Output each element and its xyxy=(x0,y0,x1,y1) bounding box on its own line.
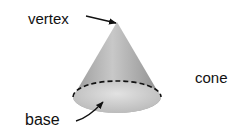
shape-name-label: cone xyxy=(195,70,228,85)
vertex-arrow xyxy=(86,16,116,23)
cone-shape xyxy=(73,22,161,113)
base-label: base xyxy=(25,112,60,128)
vertex-label: vertex xyxy=(28,11,69,26)
